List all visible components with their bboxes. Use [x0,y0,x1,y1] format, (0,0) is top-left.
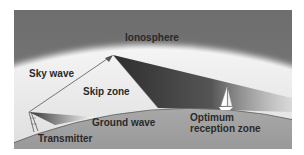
optimum-reception-label-line2: reception zone [190,123,261,134]
ground-wave-label: Ground wave [92,117,155,128]
sky-wave-label: Sky wave [29,68,74,79]
skip-zone-label: Skip zone [83,86,130,97]
ionosphere-label: Ionosphere [125,32,179,43]
transmitter-label: Transmitter [38,133,92,144]
optimum-reception-label-line1: Optimum [190,112,234,123]
